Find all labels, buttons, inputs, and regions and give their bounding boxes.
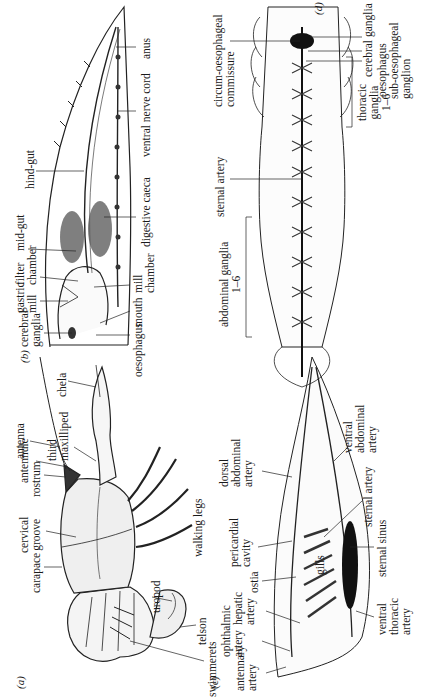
- label-rostrum: rostrum: [30, 461, 42, 497]
- label-hepatic-artery: hepatic artery: [232, 592, 256, 625]
- label-ventral-thoracic-artery: ventral thoracic artery: [376, 598, 412, 635]
- label-ventral-nerve-cord: ventral nerve cord: [140, 73, 152, 157]
- label-circum-oesophageal-commissure-text: circum-oesophageal commissure: [212, 14, 236, 107]
- label-ventral-thoracic-artery-text: ventral thoracic artery: [376, 598, 412, 635]
- label-digestive-caeca: digestive caeca: [140, 177, 152, 247]
- label-oesophagus: oesophagus: [132, 323, 144, 377]
- sternal-sinus-shape: [342, 521, 358, 609]
- label-walking-legs: walking legs: [192, 499, 204, 557]
- label-sternal-sinus: sternal sinus: [376, 520, 388, 577]
- panel-a-external-view: (a) carapace cervical groove rostrum ant…: [0, 347, 212, 697]
- panel-a-tag: (a): [14, 676, 26, 689]
- label-ventral-abdominal-artery-text: ventral abdominal artery: [342, 404, 378, 453]
- label-cervical-groove-text: cervical groove: [18, 517, 42, 553]
- panel-c-circulatory-system: (c) antennary artery ophthalmic artery h…: [212, 347, 425, 697]
- label-mill-chamber: mill chamber: [132, 253, 156, 293]
- label-dorsal-abdominal-artery: dorsal abdominal artery: [218, 438, 254, 487]
- label-d-sternal-artery: sternal artery: [214, 157, 226, 217]
- label-hind-gut: hind-gut: [24, 150, 36, 189]
- label-uropod: uropod: [150, 580, 162, 613]
- label-thoracic-ganglia-text: thoracic ganglia 1–6: [356, 84, 392, 121]
- panel-d-tag: (d): [312, 2, 324, 15]
- panel-d-nervous-system: (d) cerebral ganglia circum-oesophageal …: [212, 0, 425, 347]
- label-ostia: ostia: [248, 571, 260, 593]
- label-cerebral-ganglia: cerebral ganglia: [18, 310, 42, 347]
- label-thoracic-ganglia: thoracic ganglia 1–6: [356, 84, 392, 121]
- panel-b-tag: (b): [18, 350, 30, 363]
- label-pericardial-cavity-text: pericardial cavity: [228, 518, 252, 567]
- label-d-cerebral-ganglia: cerebral ganglia: [362, 3, 374, 77]
- label-gills: gills: [314, 555, 326, 575]
- panel-c-tag: (c): [208, 677, 220, 689]
- label-mid-gut: mid-gut: [14, 215, 26, 251]
- label-abdominal-ganglia-text: abdominal ganglia 1–6: [218, 242, 242, 327]
- label-cerebral-ganglia-text: cerebral ganglia: [18, 310, 42, 347]
- label-filter-chamber-text: filter chamber: [14, 245, 38, 285]
- label-pericardial-cavity: pericardial cavity: [228, 518, 252, 567]
- label-third-maxilliped-text: third maxilliped: [46, 412, 70, 461]
- label-carapace: carapace: [30, 553, 42, 593]
- label-ventral-abdominal-artery: ventral abdominal artery: [342, 404, 378, 453]
- label-antenna: antenna: [14, 423, 26, 459]
- label-cervical-groove: cervical groove: [18, 517, 42, 553]
- label-third-maxilliped: third maxilliped: [46, 412, 70, 461]
- label-gastric-mill: gastric mill: [14, 282, 38, 313]
- panel-b-digestive-system: (b) cerebral ganglia gastric mill filter…: [0, 0, 212, 347]
- label-anus: anus: [140, 38, 152, 59]
- label-abdominal-ganglia: abdominal ganglia 1–6: [218, 242, 242, 327]
- crayfish-anatomy-figure: (a) carapace cervical groove rostrum ant…: [0, 0, 425, 697]
- label-chela: chela: [56, 373, 68, 397]
- label-dorsal-abdominal-artery-text: dorsal abdominal artery: [218, 438, 254, 487]
- label-circum-oesophageal-commissure: circum-oesophageal commissure: [212, 14, 236, 107]
- label-mill-chamber-text: mill chamber: [132, 253, 156, 293]
- label-sternal-artery: sternal artery: [362, 467, 374, 527]
- label-hepatic-artery-text: hepatic artery: [232, 592, 256, 625]
- label-gastric-mill-text: gastric mill: [14, 282, 38, 313]
- label-filter-chamber: filter chamber: [14, 245, 38, 285]
